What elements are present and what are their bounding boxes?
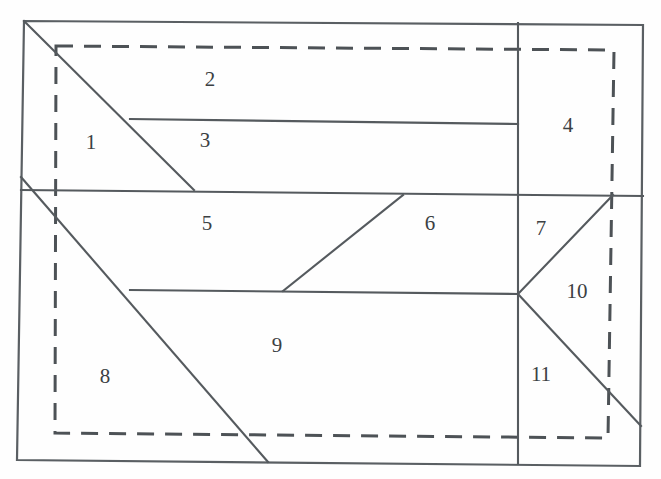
region-label-2: 2	[205, 67, 216, 91]
region-label-8: 8	[100, 364, 111, 388]
region-label-9: 9	[272, 333, 283, 357]
partition-diagram: 1 2 3 4 5 6 7 8 9 10 11	[0, 0, 661, 479]
region-label-10: 10	[567, 279, 588, 303]
region-label-6: 6	[425, 211, 436, 235]
diagram-root: 1 2 3 4 5 6 7 8 9 10 11	[0, 0, 661, 479]
region-label-4: 4	[563, 113, 574, 137]
canvas-background	[0, 0, 661, 479]
region-label-11: 11	[531, 362, 551, 386]
region-label-5: 5	[202, 211, 213, 235]
region-label-1: 1	[86, 130, 97, 154]
region-label-7: 7	[536, 216, 547, 240]
region-label-3: 3	[200, 128, 211, 152]
